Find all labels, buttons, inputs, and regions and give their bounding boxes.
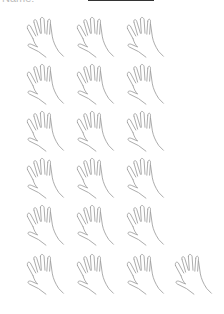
hand-outline-icon [22,154,68,200]
hand-outline-icon [122,60,168,106]
hand-outline-icon [72,201,118,247]
hand-outline-icon [72,13,118,59]
hand-outline-icon [122,107,168,153]
hands-grid [0,0,224,314]
hand-outline-icon [72,60,118,106]
hand-outline-icon [122,250,168,296]
hand-outline-icon [122,13,168,59]
hand-outline-icon [22,13,68,59]
hand-outline-icon [72,154,118,200]
hand-outline-icon [170,250,216,296]
hand-outline-icon [22,60,68,106]
hand-outline-icon [22,201,68,247]
hand-outline-icon [72,107,118,153]
hand-outline-icon [22,250,68,296]
hand-outline-icon [22,107,68,153]
hand-outline-icon [122,154,168,200]
hand-outline-icon [122,201,168,247]
hand-outline-icon [72,250,118,296]
